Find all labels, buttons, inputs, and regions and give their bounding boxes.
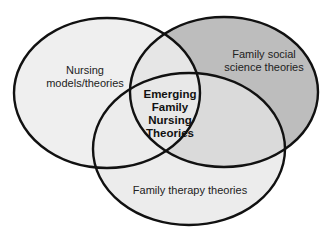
label-therapy-line1: Family therapy theories bbox=[120, 184, 260, 197]
label-nursing-line2: models/theories bbox=[30, 77, 140, 90]
label-intersection-line3: Nursing bbox=[130, 114, 210, 127]
label-intersection-line4: Theories bbox=[130, 127, 210, 140]
label-nursing: Nursing models/theories bbox=[30, 64, 140, 90]
label-intersection-line2: Family bbox=[130, 101, 210, 114]
label-social: Family social science theories bbox=[214, 48, 314, 74]
label-therapy: Family therapy theories bbox=[120, 184, 260, 197]
label-nursing-line1: Nursing bbox=[30, 64, 140, 77]
label-intersection-line1: Emerging bbox=[130, 88, 210, 101]
label-social-line2: science theories bbox=[214, 61, 314, 74]
label-social-line1: Family social bbox=[214, 48, 314, 61]
label-intersection: Emerging Family Nursing Theories bbox=[130, 88, 210, 140]
